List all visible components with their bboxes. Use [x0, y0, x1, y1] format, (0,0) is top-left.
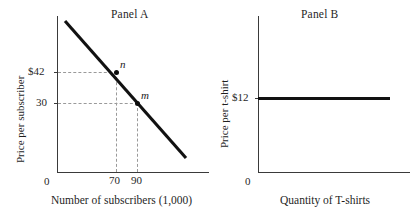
panel-b-origin-label: 0	[245, 175, 251, 187]
panel-a-point-n-marker	[114, 70, 119, 75]
panel-a: Panel A Price per subscriber Number of s…	[0, 0, 210, 218]
panel-b-x-axis	[258, 172, 410, 173]
panel-a-demand-curve	[0, 0, 210, 218]
panel-a-point-m-label: m	[141, 89, 149, 101]
panel-b-title: Panel B	[301, 8, 339, 20]
panel-a-point-m-marker	[135, 101, 140, 106]
panel-b-x-axis-label: Quantity of T-shirts	[280, 194, 370, 206]
panel-b-ytick-12: $12	[232, 91, 249, 103]
panel-a-point-n-label: n	[120, 58, 126, 70]
panel-b-demand-line	[258, 97, 390, 100]
panel-b-y-axis	[258, 16, 259, 173]
panel-b: Panel B Price per t-shirt Quantity of T-…	[200, 0, 411, 218]
economics-demand-figure: Panel A Price per subscriber Number of s…	[0, 0, 411, 218]
panel-b-y-axis-label: Price per t-shirt	[218, 80, 230, 148]
